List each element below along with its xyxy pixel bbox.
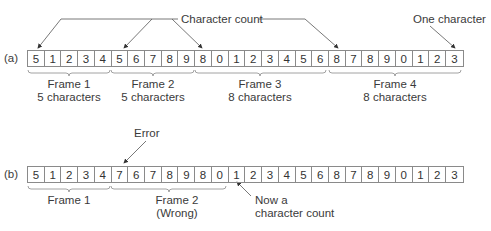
sequence-cell: 3 <box>262 51 279 66</box>
sequence-cell: 1 <box>413 51 430 66</box>
sequence-cell: 3 <box>446 51 463 66</box>
sequence-cell: 1 <box>413 167 430 182</box>
now-count-line1: Now a <box>255 194 288 207</box>
brace-a-frame1 <box>28 70 110 76</box>
brace-a-frame4 <box>329 70 461 76</box>
sequence-cell: 1 <box>45 51 62 66</box>
frame1-name: Frame 1 <box>48 78 91 91</box>
brace-a-frame3 <box>195 70 326 76</box>
sequence-cell: 7 <box>145 167 162 182</box>
sequence-cell: 8 <box>195 167 212 182</box>
part-a-sequence: 51234567898012345687890123 <box>27 50 464 67</box>
frame1-size: 5 characters <box>37 91 100 104</box>
brace-b-frame1 <box>28 186 110 192</box>
b-frame1-name: Frame 1 <box>48 194 91 207</box>
sequence-cell: 9 <box>178 167 195 182</box>
sequence-cell: 6 <box>312 51 329 66</box>
arrow-to-frame1-count <box>38 19 178 48</box>
sequence-cell: 7 <box>112 167 129 182</box>
sequence-cell: 7 <box>346 51 363 66</box>
sequence-cell: 4 <box>279 167 296 182</box>
brace-b-frame2 <box>111 186 226 192</box>
sequence-cell: 8 <box>362 167 379 182</box>
sequence-cell: 8 <box>329 51 346 66</box>
frame2-size: 5 characters <box>121 91 184 104</box>
arrow-error <box>124 141 146 163</box>
sequence-cell: 9 <box>379 51 396 66</box>
b-frame2-name: Frame 2 <box>156 194 199 207</box>
arrow-one-character <box>430 26 455 48</box>
b-frame2-status: (Wrong) <box>156 207 197 220</box>
sequence-cell: 7 <box>346 167 363 182</box>
error-label: Error <box>134 127 160 140</box>
brace-a-frame2 <box>111 70 194 76</box>
sequence-cell: 8 <box>329 167 346 182</box>
sequence-cell: 3 <box>446 167 463 182</box>
sequence-cell: 5 <box>28 167 45 182</box>
sequence-cell: 2 <box>245 167 262 182</box>
sequence-cell: 4 <box>279 51 296 66</box>
sequence-cell: 2 <box>429 167 446 182</box>
arrow-to-frame4-count <box>259 19 338 48</box>
arrow-to-frame2-count <box>124 19 152 48</box>
part-b-sequence: 51234767898012345687890123 <box>27 166 464 183</box>
sequence-cell: 3 <box>78 167 95 182</box>
sequence-cell: 5 <box>112 51 129 66</box>
frame3-name: Frame 3 <box>239 78 282 91</box>
sequence-cell: 9 <box>178 51 195 66</box>
sequence-cell: 5 <box>296 167 313 182</box>
sequence-cell: 2 <box>61 51 78 66</box>
part-a-label: (a) <box>4 52 18 65</box>
sequence-cell: 5 <box>28 51 45 66</box>
sequence-cell: 2 <box>245 51 262 66</box>
sequence-cell: 0 <box>212 167 229 182</box>
sequence-cell: 6 <box>312 167 329 182</box>
sequence-cell: 7 <box>145 51 162 66</box>
sequence-cell: 8 <box>195 51 212 66</box>
sequence-cell: 8 <box>162 51 179 66</box>
frame3-size: 8 characters <box>228 91 291 104</box>
character-count-label: Character count <box>181 13 263 26</box>
sequence-cell: 9 <box>379 167 396 182</box>
sequence-cell: 1 <box>229 167 246 182</box>
sequence-cell: 6 <box>128 51 145 66</box>
sequence-cell: 1 <box>45 167 62 182</box>
sequence-cell: 5 <box>296 51 313 66</box>
sequence-cell: 3 <box>78 51 95 66</box>
sequence-cell: 8 <box>162 167 179 182</box>
frame4-name: Frame 4 <box>374 78 417 91</box>
arrow-now-count <box>237 182 251 196</box>
sequence-cell: 6 <box>128 167 145 182</box>
sequence-cell: 2 <box>429 51 446 66</box>
sequence-cell: 1 <box>229 51 246 66</box>
sequence-cell: 3 <box>262 167 279 182</box>
sequence-cell: 2 <box>61 167 78 182</box>
sequence-cell: 8 <box>362 51 379 66</box>
part-b-label: (b) <box>4 168 18 181</box>
sequence-cell: 0 <box>396 51 413 66</box>
sequence-cell: 4 <box>95 51 112 66</box>
one-character-label: One character <box>413 13 486 26</box>
sequence-cell: 0 <box>396 167 413 182</box>
sequence-cell: 4 <box>95 167 112 182</box>
now-count-line2: character count <box>255 207 334 220</box>
sequence-cell: 0 <box>212 51 229 66</box>
frame2-name: Frame 2 <box>132 78 175 91</box>
frame4-size: 8 characters <box>363 91 426 104</box>
